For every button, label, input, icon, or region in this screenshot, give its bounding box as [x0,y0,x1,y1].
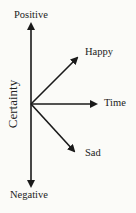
sad-arrow [31,104,74,151]
label-certainty: Certainty [5,74,21,134]
happy-arrow [31,58,77,104]
label-positive: Positive [14,9,48,20]
label-happy: Happy [85,46,113,57]
label-sad: Sad [85,147,101,158]
label-negative: Negative [10,189,48,200]
label-time: Time [104,97,126,108]
